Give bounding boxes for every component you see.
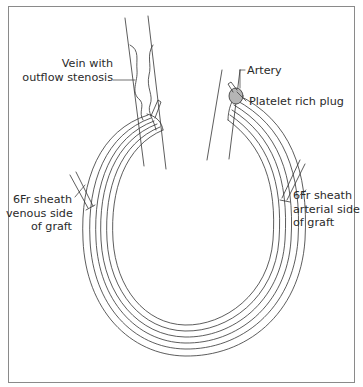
artery-label: Artery <box>247 64 282 78</box>
arterial-sheath-label: 6Fr sheath arterial side of graft <box>293 189 360 230</box>
arterial-sheath-line-2: arterial side <box>293 203 360 217</box>
vein-label-line-2: outflow stenosis <box>18 71 113 85</box>
venous-sheath-label: 6Fr sheath venous side of graft <box>6 193 72 234</box>
vein-label-line-1: Vein with <box>18 57 113 71</box>
venous-sheath-line-2: venous side <box>6 207 72 221</box>
artery-illustration <box>207 70 240 160</box>
vein-label: Vein with outflow stenosis <box>18 57 113 84</box>
arterial-sheath-line-1: 6Fr sheath <box>293 189 360 203</box>
artery-label-line-1: Artery <box>247 64 282 78</box>
vein-illustration <box>125 16 166 169</box>
plug-label-line-1: Platelet rich plug <box>249 95 344 109</box>
leader-lines <box>75 70 306 197</box>
venous-sheath-line-3: of graft <box>6 220 72 234</box>
venous-sheath-line-1: 6Fr sheath <box>6 193 72 207</box>
arterial-sheath-line-3: of graft <box>293 216 360 230</box>
graft-loop <box>83 95 306 356</box>
platelet-plug-label: Platelet rich plug <box>249 95 344 109</box>
